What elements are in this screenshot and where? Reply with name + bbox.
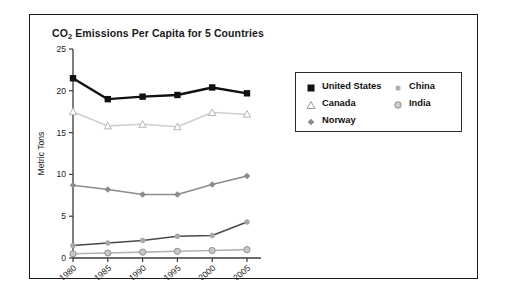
data-point-marker: [105, 240, 110, 245]
data-point-marker: [140, 249, 146, 255]
legend-label-canada: Canada: [322, 98, 356, 108]
legend-item-norway: Norway: [305, 114, 356, 126]
y-tick-label: 10: [56, 169, 66, 179]
data-point-marker: [209, 181, 216, 188]
x-tick-label: 1980: [57, 263, 78, 280]
circle-icon: [392, 97, 406, 109]
legend-label-china: China: [409, 81, 435, 91]
data-point-marker: [244, 90, 250, 96]
data-point-marker: [70, 182, 77, 189]
data-point-marker: [210, 233, 215, 238]
y-tick-label: 20: [56, 86, 66, 96]
legend-label-norway: Norway: [322, 115, 356, 125]
legend-item-canada: Canada: [305, 97, 356, 109]
legend-label-united-states: United States: [322, 81, 381, 91]
data-point-marker: [105, 96, 111, 102]
data-point-marker: [244, 247, 250, 253]
data-point-marker: [70, 243, 75, 248]
data-point-marker: [70, 251, 76, 257]
open-triangle-icon: [305, 97, 319, 109]
data-point-marker: [105, 250, 111, 256]
series-line-india: [73, 250, 247, 254]
data-point-marker: [105, 186, 112, 193]
x-tick-label: 2000: [196, 263, 217, 280]
chart-figure: CO2 Emissions Per Capita for 5 Countries…: [29, 14, 478, 279]
legend-item-china: China: [392, 80, 435, 92]
data-point-marker: [175, 234, 180, 239]
y-tick-label: 5: [61, 211, 66, 221]
data-point-marker: [69, 108, 76, 115]
diamond-icon: [305, 114, 319, 126]
x-tick-label: 2005: [231, 263, 252, 280]
filled-square-icon: [305, 80, 319, 92]
series-line-united-states: [73, 78, 247, 99]
x-tick-label: 1990: [127, 263, 148, 280]
small-dot-icon: [392, 80, 406, 92]
x-tick-label: 1995: [162, 263, 183, 280]
legend-item-united-states: United States: [305, 80, 381, 92]
data-point-marker: [139, 191, 146, 198]
y-axis-label: Metric Tons: [36, 132, 46, 176]
plot-area: 0510152025Metric Tons1980198519901995200…: [30, 15, 479, 280]
data-point-marker: [174, 248, 180, 254]
data-point-marker: [209, 84, 215, 90]
chart-legend: United States Canada Norway China India: [295, 72, 462, 132]
data-point-marker: [139, 93, 145, 99]
x-tick-label: 1985: [92, 263, 113, 280]
legend-item-india: India: [392, 97, 431, 109]
data-point-marker: [174, 191, 181, 198]
series-line-norway: [73, 176, 247, 194]
data-point-marker: [70, 75, 76, 81]
legend-label-india: India: [409, 98, 431, 108]
y-tick-label: 15: [56, 128, 66, 138]
series-line-canada: [73, 112, 247, 127]
data-point-marker: [140, 238, 145, 243]
data-point-marker: [174, 92, 180, 98]
series-line-china: [73, 222, 247, 245]
data-point-marker: [209, 247, 215, 253]
y-tick-label: 0: [61, 253, 66, 263]
data-point-marker: [244, 219, 249, 224]
data-point-marker: [244, 173, 251, 180]
y-tick-label: 25: [56, 44, 66, 54]
